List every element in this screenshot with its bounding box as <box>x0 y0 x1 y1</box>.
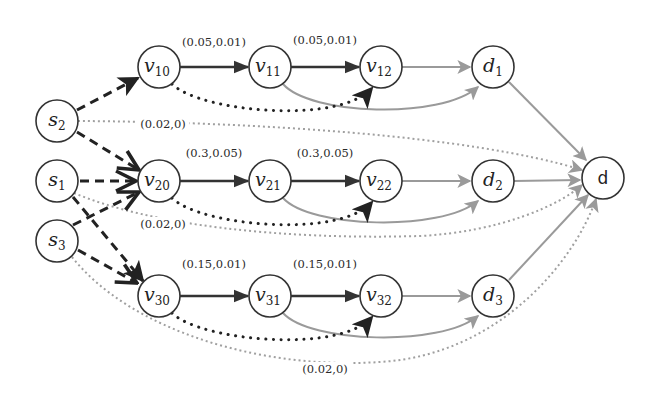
node-s2: s2 <box>36 100 78 142</box>
edge-label-s2-d: (0.02,0) <box>140 117 186 131</box>
node-v30: v30 <box>138 275 180 317</box>
edge-d2-d <box>514 180 580 181</box>
node-s3: s3 <box>36 220 78 262</box>
node-d3: d3 <box>472 275 514 317</box>
node-s1: s1 <box>36 160 78 202</box>
node-d1: d1 <box>472 46 514 88</box>
node-v31: v31 <box>249 275 291 317</box>
edge-label-v31-v32: (0.15,0.01) <box>293 257 357 271</box>
node-v12: v12 <box>360 46 402 88</box>
edge-s2-v20 <box>77 132 139 170</box>
node-v11: v11 <box>249 46 291 88</box>
node-d: d <box>582 157 624 199</box>
edge-label-v30-v31: (0.15,0.01) <box>182 257 246 271</box>
node-label: d <box>598 168 609 188</box>
edge-label-s3-d: (0.02,0) <box>302 362 348 376</box>
network-flow-diagram: (0.05,0.01)(0.05,0.01)(0.3,0.05)(0.3,0.0… <box>0 0 660 395</box>
node-d2: d2 <box>472 160 514 202</box>
edge-label-s1-d: (0.02,0) <box>140 217 186 231</box>
edge-label-v20-v21: (0.3,0.05) <box>186 146 243 160</box>
edge-s3v30 <box>78 250 137 283</box>
edge-label-v21-v22: (0.3,0.05) <box>297 146 354 160</box>
edge-d3-d <box>509 195 588 280</box>
node-v10: v10 <box>138 46 180 88</box>
node-v32: v32 <box>360 275 402 317</box>
edge-label-v11-v12: (0.05,0.01) <box>293 33 357 47</box>
edge-label-v10-v11: (0.05,0.01) <box>182 35 246 49</box>
source-edges <box>73 78 143 283</box>
edge-s2-v10 <box>77 78 138 110</box>
node-v22: v22 <box>360 160 402 202</box>
edge-d1-d <box>509 82 586 160</box>
node-v20: v20 <box>138 160 180 202</box>
node-v21: v21 <box>249 160 291 202</box>
